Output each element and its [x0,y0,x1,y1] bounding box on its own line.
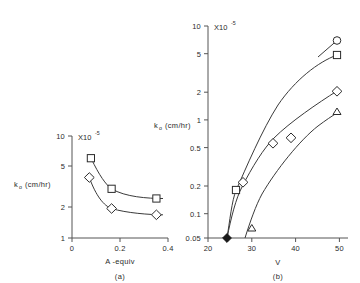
panel-b-ytick-02: 0.2 [190,182,201,191]
svg-text:k: k [14,180,18,189]
panel-a-diamond-markers [84,173,161,220]
panel-b-triangle-curve [245,113,337,238]
panel-b: 10 5 2 1 0.5 0.2 0.1 0.05 20 30 40 50 X1… [154,20,348,281]
panel-b-caption: (b) [273,272,283,281]
panel-a: 10 5 2 1 0 0.2 0.4 X10 -5 k o (cm/hr) [14,130,174,281]
panel-b-ytick-005: 0.05 [186,234,201,243]
panel-b-ytick-1: 1 [197,116,201,125]
panel-b-y-ticks [204,26,208,238]
panel-a-square-curve [91,159,163,199]
panel-a-diamond-curve [89,178,163,215]
panel-a-xtick-0: 0 [70,244,74,253]
panel-b-xtick-30: 30 [247,244,256,253]
panel-b-triangle-markers [248,108,341,231]
panel-a-x-ticks [72,238,168,242]
svg-text:o: o [19,184,22,190]
panel-b-origin-cluster-markers [223,234,232,243]
panel-b-diamond-markers [238,87,342,188]
svg-text:-5: -5 [95,130,100,136]
panel-a-x-axis-label: A -equiv [105,257,135,266]
panel-a-caption: (a) [115,272,125,281]
panel-b-square-curve [227,55,337,238]
panel-a-square-markers [87,155,160,202]
panel-b-circle-markers [333,37,341,45]
svg-text:X10: X10 [78,133,91,142]
panel-b-xtick-50: 50 [335,244,344,253]
svg-text:(cm/hr): (cm/hr) [165,121,191,130]
svg-text:(cm/hr): (cm/hr) [25,180,51,189]
panel-b-y-axis-label: k o (cm/hr) [154,121,191,131]
svg-text:X10: X10 [214,23,227,32]
panel-b-xtick-20: 20 [204,244,213,253]
panel-a-xtick-02: 0.2 [114,244,125,253]
panel-b-square-markers [232,51,340,193]
panel-b-ytick-05: 0.5 [190,144,201,153]
panel-a-y-axis-label: k o (cm/hr) [14,180,51,190]
panel-a-ytick-1: 1 [61,234,65,243]
panel-b-xtick-40: 40 [291,244,300,253]
panel-a-y-ticks [68,136,72,238]
svg-text:o: o [159,125,162,131]
panel-a-ytick-5: 5 [61,162,65,171]
panel-b-x-axis-label: V [275,258,280,267]
panel-b-ytick-01: 0.1 [190,210,201,219]
panel-a-exponent-note: X10 -5 [78,130,100,142]
svg-text:k: k [154,121,158,130]
svg-text:-5: -5 [231,20,236,26]
panel-a-xtick-04: 0.4 [162,244,173,253]
panel-a-ytick-2: 2 [61,203,65,212]
panel-b-ytick-5: 5 [197,50,201,59]
figure-container: 10 5 2 1 0 0.2 0.4 X10 -5 k o (cm/hr) [0,0,360,283]
figure-svg: 10 5 2 1 0 0.2 0.4 X10 -5 k o (cm/hr) [0,0,360,283]
panel-b-exponent-note: X10 -5 [214,20,236,32]
panel-b-ytick-10: 10 [192,22,201,31]
panel-a-ytick-10: 10 [56,132,65,141]
panel-b-ytick-2: 2 [197,88,201,97]
